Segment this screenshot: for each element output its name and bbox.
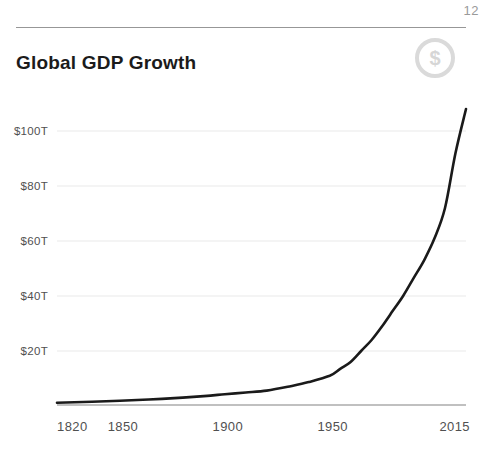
y-tick-label: $20T [21, 345, 48, 357]
gdp-line-chart: $20T$40T$60T$80T$100T1820185019001950201… [0, 0, 492, 458]
x-tick-label: 1820 [57, 419, 88, 434]
y-tick-label: $80T [21, 180, 48, 192]
x-tick-label: 1950 [317, 419, 348, 434]
y-tick-label: $60T [21, 235, 48, 247]
y-tick-label: $100T [14, 125, 48, 137]
y-tick-label: $40T [21, 290, 48, 302]
x-tick-label: 1850 [108, 419, 139, 434]
x-tick-label: 2015 [439, 419, 470, 434]
gdp-line [57, 109, 466, 403]
page: 12 Global GDP Growth $ $20T$40T$60T$80T$… [0, 0, 492, 458]
x-tick-label: 1900 [213, 419, 244, 434]
